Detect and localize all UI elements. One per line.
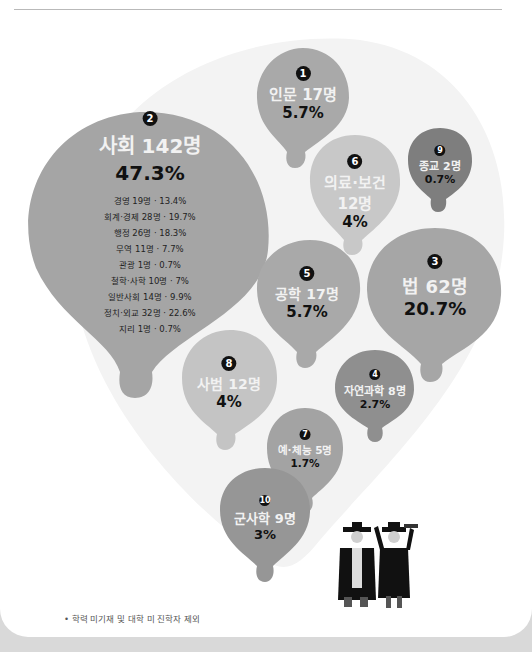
category-count: 12명	[324, 192, 386, 213]
rank-badge: 7	[299, 429, 310, 440]
bubble-label-inmun: 1 인문 17명 5.7%	[269, 62, 337, 122]
rank-badge: 3	[427, 254, 442, 269]
breakdown-row: 일반사회 14명 · 9.9%	[99, 289, 202, 305]
breakdown-row: 회계·경제 28명 · 19.7%	[99, 209, 202, 225]
category-percent: 4%	[197, 393, 260, 411]
bubble-label-sabeom: 8 사범 12명 4%	[197, 352, 260, 411]
category-name: 의료·보건	[324, 171, 386, 192]
category-name: 인문 17명	[269, 83, 337, 104]
category-name: 종교 2명	[419, 157, 460, 173]
breakdown-row: 무역 11명 · 7.7%	[99, 241, 202, 257]
category-percent: 4%	[324, 213, 386, 231]
category-percent: 5.7%	[275, 303, 338, 321]
breakdown-row: 관광 1명 · 0.7%	[99, 257, 202, 273]
category-name: 사회 142명	[99, 130, 202, 159]
category-percent: 20.7%	[402, 298, 467, 319]
category-name: 예·체능 5명	[278, 442, 333, 457]
category-percent: 3%	[234, 527, 296, 542]
category-name: 법 62명	[402, 272, 467, 298]
infographic-card: 1 인문 17명 5.7% 2 사회 142명 47.3% 경영 19명 · 1…	[0, 0, 532, 637]
breakdown-row: 행정 26명 · 18.3%	[99, 225, 202, 241]
bubble-label-gonghak: 5 공학 17명 5.7%	[275, 262, 338, 321]
category-name: 군사학 9명	[234, 508, 296, 527]
category-name: 사범 12명	[197, 373, 260, 393]
graduates-illustration	[338, 522, 418, 608]
bubble-chart	[0, 0, 532, 652]
bubble-label-gunsahak: 10 군사학 9명 3%	[234, 488, 296, 542]
breakdown-row: 정치·외교 32명 · 22.6%	[99, 305, 202, 321]
category-percent: 5.7%	[269, 104, 337, 122]
rank-badge: 6	[347, 154, 362, 169]
category-percent: 0.7%	[419, 173, 460, 186]
footnote: • 학력 미기재 및 대학 미 진학자 제외	[64, 612, 200, 624]
breakdown-row: 지리 1명 · 0.7%	[99, 321, 202, 337]
bubble-label-jonggyo: 9 종교 2명 0.7%	[419, 138, 460, 186]
rank-badge: 1	[295, 66, 310, 81]
bubble-label-sahoe: 2 사회 142명 47.3% 경영 19명 · 13.4% 회계·경제 28명…	[99, 107, 202, 337]
bubble-label-uiryo: 6 의료·보건 12명 4%	[324, 150, 386, 231]
rank-badge: 10	[259, 495, 270, 506]
category-name: 공학 17명	[275, 283, 338, 303]
breakdown-row: 경영 19명 · 13.4%	[99, 193, 202, 209]
rank-badge: 5	[299, 266, 314, 281]
rank-badge: 2	[143, 111, 158, 126]
rank-badge: 4	[369, 369, 380, 380]
category-percent: 47.3%	[99, 161, 202, 185]
rank-badge: 9	[434, 145, 445, 156]
rank-badge: 8	[221, 356, 236, 371]
category-name: 자연과학 8명	[344, 382, 405, 398]
bubble-label-jayeon: 4 자연과학 8명 2.7%	[344, 362, 405, 411]
bubble-label-beop: 3 법 62명 20.7%	[402, 250, 467, 319]
bubble-label-yechaeneung: 7 예·체능 5명 1.7%	[278, 422, 333, 469]
breakdown-row: 철학·사학 10명 · 7%	[99, 273, 202, 289]
category-percent: 1.7%	[278, 457, 333, 469]
category-percent: 2.7%	[344, 398, 405, 411]
